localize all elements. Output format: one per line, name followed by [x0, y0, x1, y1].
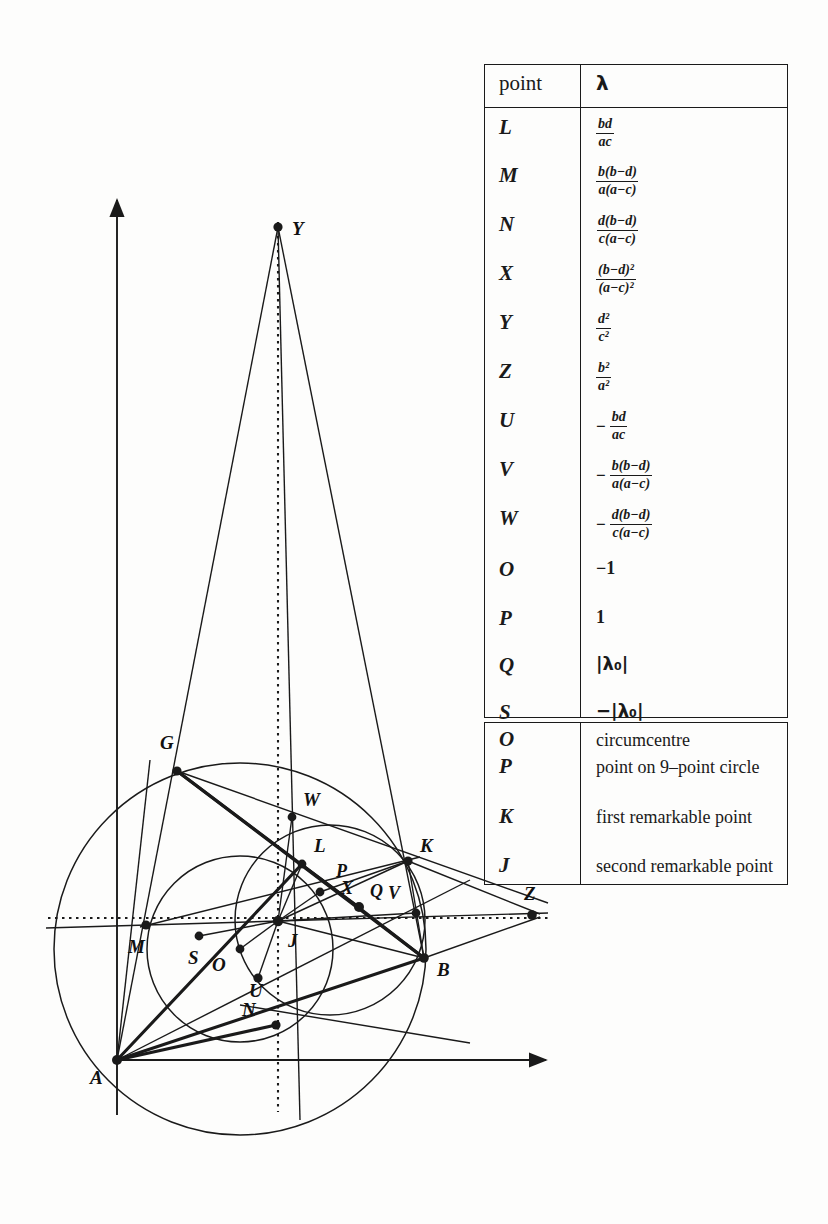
dot-N	[271, 1020, 280, 1029]
desc-row-J: J second remarkable point	[485, 855, 787, 878]
table-row-Q: Q |λ₀|	[485, 655, 787, 676]
row-value-P: 1	[580, 608, 787, 626]
thin-lines	[46, 227, 548, 1120]
minus-sign: −	[596, 467, 606, 484]
desc-point-J: J	[485, 855, 580, 876]
dot-A	[112, 1055, 122, 1065]
desc-text-J: second remarkable point	[580, 855, 787, 878]
page-canvas: Y G W L K P X Q V Z M J S O B U N A poin…	[0, 0, 828, 1224]
seg-A-N	[117, 1025, 276, 1060]
row-point-N: N	[485, 214, 580, 235]
frac-num: d(b−d)	[596, 214, 639, 230]
desc-text-O: circumcentre	[580, 729, 787, 752]
frac-den: c²	[596, 328, 610, 345]
table-row-U: U −bdac	[485, 410, 787, 442]
row-point-W: W	[485, 508, 580, 529]
minus-sign: −	[596, 516, 606, 533]
frac-num: bd	[596, 117, 614, 133]
line-A-toward-K	[117, 880, 470, 1060]
table-row-W: W −d(b−d)c(a−c)	[485, 508, 787, 540]
point-dots	[112, 222, 537, 1065]
dot-G	[172, 766, 181, 775]
dot-Z	[527, 910, 537, 920]
desc-row-O: O circumcentre	[485, 729, 787, 752]
row-value-Y: d²c²	[580, 312, 787, 344]
row-value-M: b(b−d)a(a−c)	[580, 165, 787, 197]
line-Y-through-N	[278, 227, 300, 1120]
point-label-K: K	[420, 836, 433, 855]
frac-den: c(a−c)	[610, 524, 651, 541]
dotted-guides	[48, 222, 552, 1112]
table-row-L: L bdac	[485, 117, 787, 149]
point-label-J: J	[288, 931, 298, 950]
frac-den: a(a−c)	[596, 181, 638, 198]
frac-den: ac	[610, 426, 627, 443]
row-point-Y: Y	[485, 312, 580, 333]
dot-B	[419, 953, 429, 963]
row-value-Q: |λ₀|	[580, 655, 787, 673]
point-label-X: X	[341, 879, 353, 897]
desc-point-P: P	[485, 756, 580, 777]
row-point-U: U	[485, 410, 580, 431]
row-point-Z: Z	[485, 361, 580, 382]
dot-K	[403, 856, 412, 865]
point-label-Q: Q	[370, 882, 383, 900]
frac-num: d²	[596, 312, 611, 328]
point-label-Y: Y	[292, 219, 304, 238]
table-row-X: X (b−d)²(a−c)²	[485, 263, 787, 295]
dot-L	[298, 860, 307, 869]
dot-S	[195, 932, 204, 941]
row-value-U: −bdac	[580, 410, 787, 442]
table-row-V: V −b(b−d)a(a−c)	[485, 459, 787, 491]
desc-point-K: K	[485, 806, 580, 827]
frac-num: b(b−d)	[610, 459, 653, 475]
header-point: point	[485, 73, 580, 94]
point-label-Z: Z	[524, 884, 536, 903]
description-table: O circumcentre P point on 9–point circle…	[484, 722, 788, 885]
frac-den: a²	[596, 377, 611, 394]
dot-O	[236, 945, 245, 954]
row-value-V: −b(b−d)a(a−c)	[580, 459, 787, 491]
row-point-L: L	[485, 117, 580, 138]
point-label-B: B	[437, 960, 450, 979]
row-value-S: −|λ₀|	[580, 702, 787, 720]
row-point-V: V	[485, 459, 580, 480]
point-label-S: S	[188, 948, 199, 967]
dot-V	[412, 909, 421, 918]
line-J-U	[258, 921, 278, 978]
desc-row-K: K first remarkable point	[485, 806, 787, 829]
table-row-P: P 1	[485, 608, 787, 629]
row-point-P: P	[485, 608, 580, 629]
dot-M	[141, 920, 150, 929]
minus-sign: −	[596, 418, 606, 435]
point-label-W: W	[303, 790, 320, 809]
frac-num: d(b−d)	[610, 508, 653, 524]
row-value-N: d(b−d)c(a−c)	[580, 214, 787, 246]
point-label-A: A	[90, 1068, 103, 1087]
frac-num: bd	[610, 410, 628, 426]
point-label-U: U	[249, 981, 263, 1000]
row-value-X: (b−d)²(a−c)²	[580, 263, 787, 295]
axes-group	[117, 200, 546, 1115]
row-value-L: bdac	[580, 117, 787, 149]
line-Y-B	[278, 227, 424, 958]
dot-J	[273, 916, 283, 926]
table-row-Z: Z b²a²	[485, 361, 787, 393]
table-row-Y: Y d²c²	[485, 312, 787, 344]
row-point-Q: Q	[485, 655, 580, 676]
desc-text-K: first remarkable point	[580, 806, 787, 829]
row-point-M: M	[485, 165, 580, 186]
frac-den: c(a−c)	[597, 230, 638, 247]
table-row-N: N d(b−d)c(a−c)	[485, 214, 787, 246]
point-label-M: M	[128, 937, 145, 956]
row-point-X: X	[485, 263, 580, 284]
dot-Y	[273, 222, 282, 231]
row-value-O: −1	[580, 559, 787, 577]
row-point-S: S	[485, 702, 580, 723]
table-row-S: S −|λ₀|	[485, 702, 787, 723]
lambda-table: point λ L bdac M b(b−d)a(a−c) N d(b−d)c(…	[484, 64, 788, 718]
dot-P	[316, 888, 325, 897]
point-label-O: O	[212, 955, 226, 974]
table-row-O: O −1	[485, 559, 787, 580]
row-value-Z: b²a²	[580, 361, 787, 393]
